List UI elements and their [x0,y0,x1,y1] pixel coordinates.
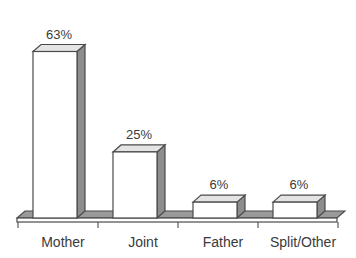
bar-top-face [273,195,325,202]
bar-value-label: 6% [290,177,309,192]
axis-ticks [18,222,338,228]
bar-front-face [193,202,237,218]
chart-canvas: 63%25%6%6% MotherJointFatherSplit/Other [0,0,356,258]
bar-top-face [193,195,245,202]
bar-mother [33,45,85,219]
category-labels-layer: MotherJointFatherSplit/Other [41,234,336,250]
bar-split-other [273,195,325,218]
category-label: Split/Other [270,234,336,250]
bar-top-face [33,45,85,52]
bar-top-face [113,145,165,152]
bar-value-label: 6% [210,177,229,192]
category-label: Joint [128,234,158,250]
bars-layer [33,45,325,219]
bar-side-face [157,145,165,218]
bar-front-face [273,202,317,218]
bar-front-face [33,52,77,219]
bar-joint [113,145,165,218]
bar-value-label: 25% [126,127,152,142]
bar-front-face [113,152,157,218]
bar-chart: 63%25%6%6% MotherJointFatherSplit/Other [0,0,356,258]
bar-father [193,195,245,218]
axis-floor-front-face [17,218,337,222]
category-label: Father [203,234,244,250]
bar-value-label: 63% [46,27,72,42]
category-label: Mother [41,234,85,250]
bar-side-face [77,45,85,219]
